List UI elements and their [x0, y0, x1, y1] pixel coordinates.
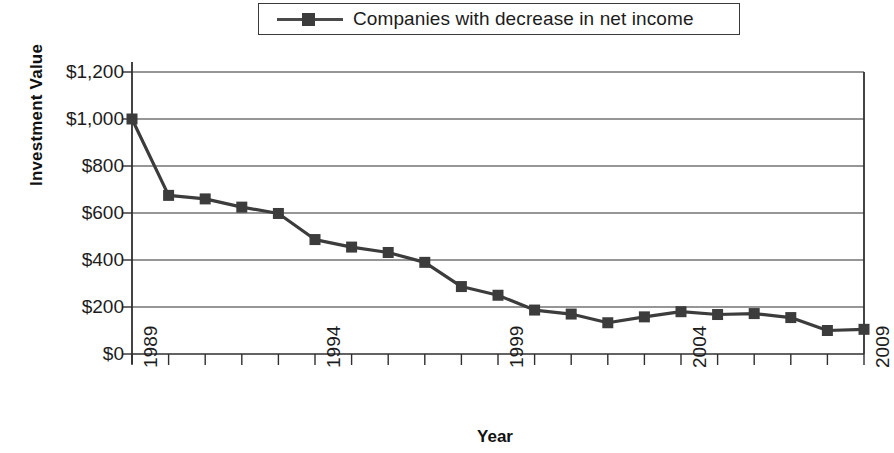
x-tick-label: 1994: [323, 326, 345, 368]
x-tick-label: 2009: [872, 326, 894, 368]
x-tick-label: 1989: [140, 326, 162, 368]
x-tick-label: 1999: [506, 326, 528, 368]
x-tick-label: 2004: [689, 326, 711, 368]
